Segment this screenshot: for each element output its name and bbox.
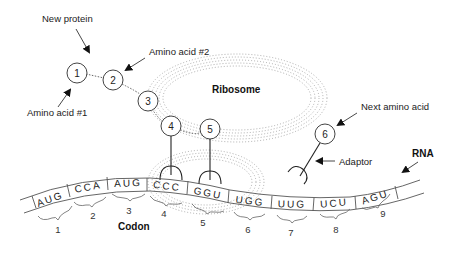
codon-2: CCA bbox=[74, 179, 103, 195]
label-adaptor: Adaptor bbox=[317, 156, 372, 167]
svg-text:Adaptor: Adaptor bbox=[339, 156, 372, 167]
trna-adaptor-6 bbox=[288, 143, 320, 184]
codon-numbers: 1 2 3 4 5 6 7 8 9 bbox=[55, 205, 385, 238]
svg-text:5: 5 bbox=[200, 217, 205, 228]
label-next-amino-acid: Next amino acid bbox=[338, 101, 429, 125]
codon-1: AUG bbox=[35, 189, 65, 209]
svg-text:5: 5 bbox=[207, 124, 213, 135]
svg-text:1: 1 bbox=[74, 68, 80, 79]
label-amino-acid-1: Amino acid #1 bbox=[27, 90, 87, 118]
label-amino-acid-2: Amino acid #2 bbox=[126, 46, 209, 70]
svg-text:RNA: RNA bbox=[412, 148, 434, 159]
svg-text:6: 6 bbox=[322, 129, 328, 140]
svg-text:2: 2 bbox=[110, 75, 116, 86]
svg-text:New protein: New protein bbox=[42, 13, 93, 24]
amino-acid-6: 6 bbox=[315, 124, 335, 144]
svg-text:4: 4 bbox=[168, 121, 174, 132]
label-new-protein: New protein bbox=[42, 13, 93, 52]
label-codon: Codon bbox=[118, 221, 150, 232]
codon-3: AUG bbox=[114, 177, 142, 189]
amino-acid-2: 2 bbox=[103, 70, 123, 90]
svg-text:4: 4 bbox=[161, 208, 166, 219]
svg-text:7: 7 bbox=[288, 227, 293, 238]
amino-acid-5: 5 bbox=[200, 119, 220, 139]
svg-text:3: 3 bbox=[126, 205, 131, 216]
svg-text:8: 8 bbox=[333, 224, 338, 235]
svg-text:Amino acid #1: Amino acid #1 bbox=[27, 107, 87, 118]
codon-7: UUG bbox=[278, 198, 306, 209]
label-rna: RNA bbox=[403, 148, 434, 172]
amino-acid-3: 3 bbox=[138, 91, 158, 111]
svg-text:2: 2 bbox=[90, 210, 95, 221]
svg-text:Amino acid #2: Amino acid #2 bbox=[149, 46, 209, 57]
translation-diagram: 1 2 3 4 5 6 bbox=[0, 0, 454, 253]
svg-text:6: 6 bbox=[245, 224, 250, 235]
svg-text:Codon: Codon bbox=[118, 221, 150, 232]
amino-acid-4: 4 bbox=[161, 116, 181, 136]
codon-8: UCU bbox=[320, 196, 349, 209]
svg-text:9: 9 bbox=[380, 208, 385, 219]
svg-text:1: 1 bbox=[55, 224, 60, 235]
svg-text:3: 3 bbox=[145, 96, 151, 107]
amino-acid-1: 1 bbox=[67, 63, 87, 83]
svg-text:Next amino acid: Next amino acid bbox=[361, 101, 429, 112]
label-ribosome: Ribosome bbox=[212, 84, 261, 95]
trna-adaptor-5 bbox=[199, 139, 221, 184]
svg-text:Ribosome: Ribosome bbox=[212, 84, 261, 95]
codon-6: UGG bbox=[235, 194, 265, 208]
